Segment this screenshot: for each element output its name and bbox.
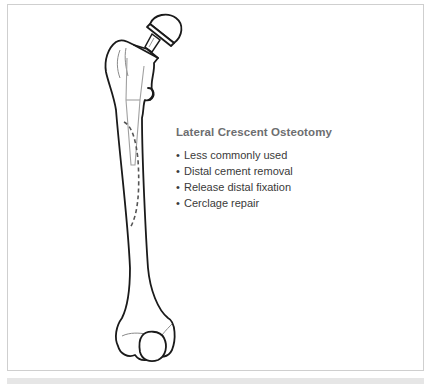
caption-title: Lateral Crescent Osteotomy [176, 126, 332, 138]
femur-bone-outline [105, 40, 174, 360]
distal-condyle-icon [139, 332, 166, 361]
bullet-text: Less commonly used [184, 149, 287, 161]
bullet-text: Release distal fixation [184, 181, 291, 193]
bullet-text: Cerclage repair [184, 197, 259, 209]
bullet-item: •Release distal fixation [176, 179, 332, 195]
bullet-item: •Cerclage repair [176, 195, 332, 211]
bullet-dot-icon: • [176, 179, 184, 195]
bullet-item: •Distal cement removal [176, 163, 332, 179]
caption-bullet-list: •Less commonly used •Distal cement remov… [176, 147, 332, 211]
osteotomy-caption: Lateral Crescent Osteotomy •Less commonl… [176, 126, 332, 211]
bullet-dot-icon: • [176, 163, 184, 179]
bullet-dot-icon: • [176, 195, 184, 211]
bottom-divider-band [7, 378, 424, 384]
bullet-text: Distal cement removal [184, 165, 293, 177]
bullet-dot-icon: • [176, 147, 184, 163]
bullet-item: •Less commonly used [176, 147, 332, 163]
